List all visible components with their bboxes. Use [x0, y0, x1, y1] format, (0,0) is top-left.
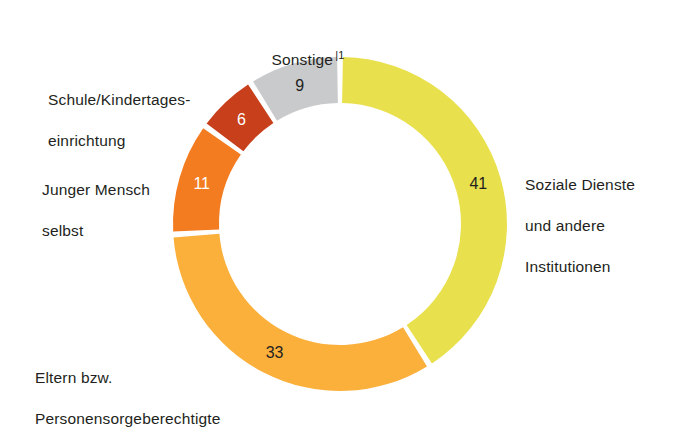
label-schule-line2: einrichtung [48, 131, 208, 151]
donut-slices [173, 57, 507, 391]
donut-chart: 41331169 Soziale Dienste und andere Inst… [0, 0, 687, 435]
label-junger-mensch: Junger Mensch selbst [42, 160, 192, 262]
label-soziale-line3: Institutionen [525, 257, 685, 277]
slice-value-label: 11 [193, 175, 210, 192]
donut-slice [342, 57, 507, 363]
label-schule-kindertageseinrichtung: Schule/Kindertages- einrichtung [48, 70, 208, 172]
slice-value-label: 41 [469, 175, 487, 192]
label-sonstige-text: Sonstige [272, 52, 334, 69]
label-sonstige: Sonstige|1 [228, 28, 388, 71]
label-eltern-line1: Eltern bzw. [35, 368, 295, 388]
label-schule-line1: Schule/Kindertages- [48, 90, 208, 110]
slice-value-label: 9 [295, 77, 304, 94]
label-eltern: Eltern bzw. Personensorgeberechtigte [35, 348, 295, 435]
label-sonstige-footnote: |1 [335, 49, 344, 61]
label-junger-line1: Junger Mensch [42, 180, 192, 200]
label-junger-line2: selbst [42, 221, 192, 241]
label-soziale-line2: und andere [525, 216, 685, 236]
label-soziale-dienste: Soziale Dienste und andere Institutionen [525, 155, 685, 298]
label-eltern-line2: Personensorgeberechtigte [35, 409, 295, 429]
label-soziale-line1: Soziale Dienste [525, 175, 685, 195]
slice-value-label: 6 [237, 111, 246, 128]
